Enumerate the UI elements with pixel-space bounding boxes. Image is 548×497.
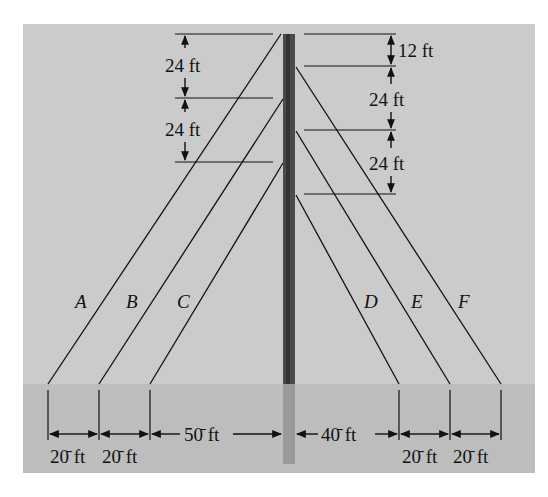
- left-height-label-1: 24 ft: [165, 55, 201, 76]
- cable-label-a: A: [73, 291, 87, 312]
- cable-label-b: B: [126, 291, 138, 312]
- right-height-label-1: 12 ft: [398, 40, 434, 61]
- cable-label-f: F: [457, 291, 470, 312]
- spacing-label-b-c: 20̄ ft: [102, 446, 138, 467]
- left-height-label-2: 24 ft: [165, 119, 201, 140]
- pole-underground: [283, 384, 295, 464]
- cable-label-c: C: [177, 291, 190, 312]
- pole-center-shade: [286, 34, 290, 384]
- spacing-label-a-b: 20̄ ft: [50, 446, 86, 467]
- spacing-label-pole-d: 40̄ ft: [321, 424, 357, 445]
- cable-pole-diagram: 24 ft 24 ft 12 ft 24 ft 24 ft A B C D E …: [0, 0, 548, 497]
- cable-label-e: E: [410, 291, 423, 312]
- sky-panel: [23, 24, 535, 384]
- right-height-label-2: 24 ft: [369, 89, 405, 110]
- spacing-label-d-e: 20̄ ft: [402, 446, 438, 467]
- cable-label-d: D: [363, 291, 378, 312]
- spacing-label-c-pole: 50̄ ft: [184, 424, 220, 445]
- spacing-label-e-f: 20̄ ft: [453, 446, 489, 467]
- right-height-label-3: 24 ft: [369, 153, 405, 174]
